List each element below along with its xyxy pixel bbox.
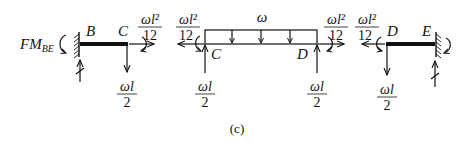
moment-numerator-c: ωl² — [141, 12, 160, 27]
reaction-numerator-d: ωl — [310, 79, 324, 94]
node-label-d: D — [386, 23, 398, 39]
right-member: ωl² 12 D E ωl 2 — [355, 12, 450, 113]
reaction-denominator-c: 2 — [202, 95, 209, 110]
wall-hatch-icon-b — [74, 34, 79, 58]
node-label-e: E — [421, 23, 431, 39]
moment-numerator-d: ωl² — [358, 12, 377, 27]
shear-denominator-d: 2 — [384, 98, 391, 113]
load-label: ω — [257, 9, 268, 25]
reaction-denominator-d: 2 — [314, 95, 321, 110]
shear-numerator-c: ωl — [120, 79, 134, 94]
node-label-c: C — [118, 23, 129, 39]
moment-numerator-d-mid: ωl² — [327, 12, 346, 27]
moment-denominator-c: 12 — [143, 28, 157, 43]
moment-denominator-c-mid: 12 — [179, 28, 193, 43]
figure-caption: (c) — [230, 121, 244, 136]
shear-denominator-c: 2 — [124, 95, 131, 110]
reaction-numerator-c: ωl — [198, 79, 212, 94]
fixed-end-moment-label: FMBE — [19, 36, 54, 54]
moment-numerator-c-mid: ωl² — [179, 12, 198, 27]
moment-denominator-d-mid: 12 — [329, 28, 343, 43]
node-label-b: B — [86, 23, 95, 39]
shear-numerator-d: ωl — [380, 82, 394, 97]
free-body-diagram: FMBE B C ωl² 12 ωl 2 ω — [0, 0, 474, 146]
middle-member: ω ωl² 12 C ωl 2 D ωl 2 ωl² 12 — [176, 9, 348, 110]
node-label-d-mid: D — [296, 46, 308, 62]
moment-arc-icon-e — [444, 38, 450, 53]
wall-hatch-icon-e — [436, 34, 441, 58]
node-label-c-mid: C — [211, 46, 222, 62]
left-member: FMBE B C ωl² 12 ωl 2 — [19, 12, 162, 110]
moment-denominator-d: 12 — [358, 28, 372, 43]
moment-arc-icon-b — [60, 35, 66, 53]
